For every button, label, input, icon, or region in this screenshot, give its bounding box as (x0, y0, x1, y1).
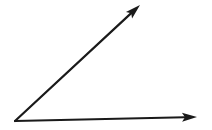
angle-figure-canvas (0, 0, 212, 130)
angle-diagram (0, 0, 212, 130)
diagonal-ray-line (15, 13, 131, 121)
horizontal-ray-line (15, 117, 185, 121)
